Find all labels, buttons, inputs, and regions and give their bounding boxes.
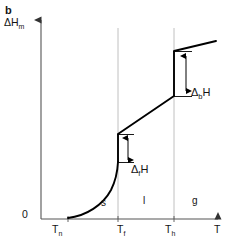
x-tick-label-tn: Tn — [52, 224, 62, 237]
x-tick-label-tf-subscript: f — [123, 230, 125, 237]
annotation-delta-boiling: ΔbH — [191, 87, 210, 101]
y-axis-label-main: ΔH — [4, 16, 19, 28]
annotation-delta-fusion-tail: H — [140, 163, 148, 175]
origin-label: 0 — [22, 209, 28, 220]
x-axis-label: T — [214, 224, 220, 235]
x-tick-label-tf: Tf — [117, 224, 125, 237]
annotation-delta-boiling-tail: H — [203, 86, 211, 98]
x-tick-label-tn-subscript: n — [58, 230, 62, 237]
curve-liquid-branch — [118, 96, 174, 134]
panel-letter: b — [5, 5, 12, 16]
phase-label-gas: g — [192, 196, 198, 206]
curve-gas-branch — [174, 41, 216, 51]
x-tick-label-th-subscript: h — [171, 230, 175, 237]
enthalpy-temperature-figure: b ΔHm T 0 Tn Tf Th s l g ΔfH ΔbH — [0, 0, 230, 239]
y-axis-label-subscript: m — [19, 23, 25, 30]
y-axis-label: ΔHm — [4, 17, 24, 30]
phase-label-solid: s — [101, 198, 106, 208]
x-tick-label-th: Th — [165, 224, 175, 237]
curve-solid-branch — [68, 162, 118, 218]
phase-label-liquid: l — [143, 196, 145, 206]
annotation-delta-fusion: ΔfH — [131, 164, 148, 178]
